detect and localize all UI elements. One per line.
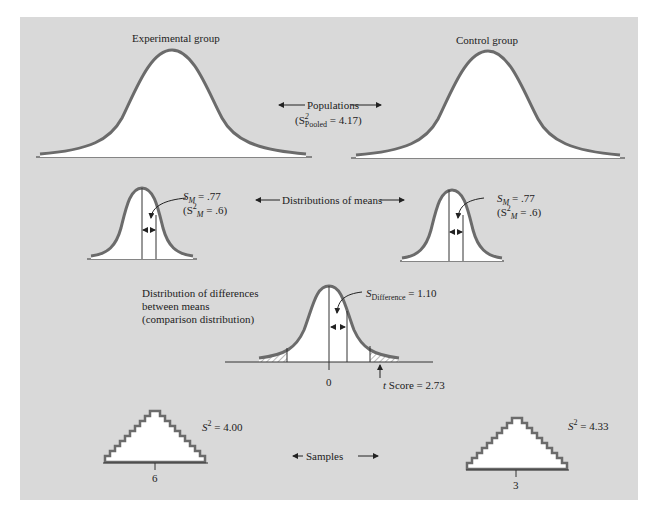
control-population-curve (351, 51, 625, 158)
distributions-of-means-label: Distributions of means (282, 194, 382, 206)
comparison-label-line2: between means (142, 300, 210, 312)
experimental-means-distribution (87, 188, 197, 259)
comparison-label-line3: (comparison distribution) (142, 313, 254, 325)
control-sample-histogram (466, 418, 569, 477)
populations-label: Populations (307, 99, 359, 111)
control-sample-mean-tick: 3 (513, 479, 519, 491)
s-difference-label: SDifference = 1.10 (366, 287, 437, 299)
control-sm-variance-label: (S2M = .6) (497, 206, 541, 218)
experimental-group-label: Experimental group (132, 32, 220, 44)
experimental-sample-histogram (103, 411, 208, 470)
experimental-sm-label: SM = .77 (183, 190, 221, 202)
comparison-label-line1: Distribution of differences (142, 287, 259, 299)
control-means-distribution (400, 190, 504, 261)
samples-label: Samples (306, 450, 343, 462)
control-sample-variance-label: S2 = 4.33 (568, 420, 608, 432)
control-sm-label: SM = .77 (497, 192, 535, 204)
experimental-sm-variance-label: (S2M = .6) (183, 204, 227, 216)
experimental-population-curve (36, 50, 312, 157)
zero-tick-label: 0 (326, 376, 332, 388)
experimental-sample-variance-label: S2 = 4.00 (202, 421, 242, 433)
t-score-label: t Score = 2.73 (383, 379, 445, 391)
pooled-variance-label: (S2Pooled = 4.17) (295, 113, 362, 129)
diagram-graphics (0, 0, 654, 512)
experimental-sample-mean-tick: 6 (152, 472, 158, 484)
control-group-label: Control group (456, 34, 518, 46)
